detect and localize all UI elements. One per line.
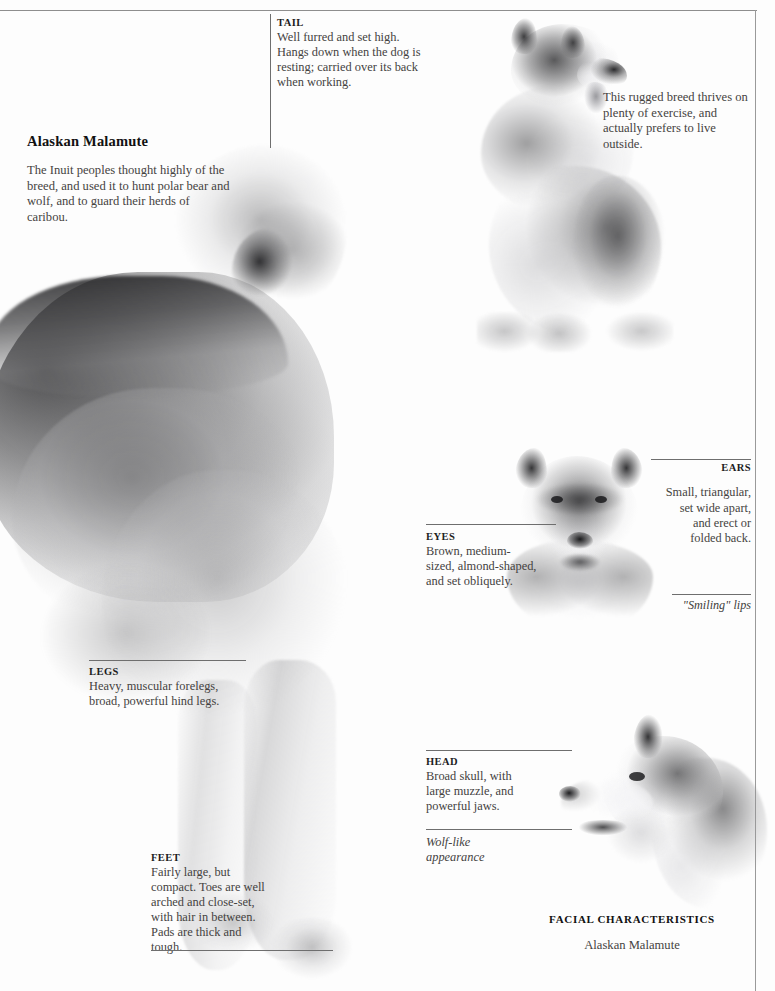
head-leader-line [426,750,572,751]
callout-feet-header: FEET [151,851,269,864]
callout-eyes-header: EYES [426,530,538,543]
callout-feet-body: Fairly large, but compact. Toes are well… [151,865,269,955]
caption-subtitle: Alaskan Malamute [487,938,775,953]
eyes-leader-line [426,524,556,525]
page-top-rule [0,10,757,11]
tail-leader-line [270,14,271,148]
callout-smiling-lips: "Smiling" lips [611,598,751,613]
book-page: TAIL Well furred and set high. Hangs dow… [0,0,775,991]
alaskan-malamute-sitting-photo [455,16,685,361]
legs-leader-line [89,660,246,661]
ears-leader-line [651,459,751,460]
feet-leader-line [151,950,333,951]
callout-eyes-body: Brown, medium-sized, almond-shaped, and … [426,544,538,589]
callout-head: HEAD Broad skull, with large muzzle, and… [426,755,530,814]
side-note-text: This rugged breed thrives on plenty of e… [603,90,753,153]
callout-ears-header: EARS [665,462,751,473]
facial-characteristics-caption: FACIAL CHARACTERISTICS Alaskan Malamute [487,913,775,965]
caption-title: FACIAL CHARACTERISTICS [487,913,775,925]
callout-wolf-like: Wolf-like appearance [426,835,530,865]
callout-legs-header: LEGS [89,665,229,678]
callout-eyes: EYES Brown, medium-sized, almond-shaped,… [426,530,538,589]
callout-legs-body: Heavy, muscular forelegs, broad, powerfu… [89,679,229,709]
callout-ears-body: Small, triangular, set wide apart, and e… [665,485,751,546]
callout-tail-header: TAIL [277,16,425,29]
callout-tail: TAIL Well furred and set high. Hangs dow… [277,16,425,90]
callout-ears: EARS Small, triangular, set wide apart, … [665,462,751,559]
breed-title-block: Alaskan Malamute The Inuit peoples thoug… [27,133,232,238]
smiling-lips-leader-line [672,594,751,595]
callout-head-body: Broad skull, with large muzzle, and powe… [426,769,530,814]
wolf-like-leader-line [426,829,572,830]
alaskan-malamute-standing-photo [0,140,402,970]
callout-tail-body: Well furred and set high. Hangs down whe… [277,30,425,90]
breed-intro-text: The Inuit peoples thought highly of the … [27,163,232,225]
page-title: Alaskan Malamute [27,133,232,150]
callout-head-header: HEAD [426,755,530,768]
alaskan-malamute-head-profile-photo [555,700,765,915]
callout-legs: LEGS Heavy, muscular forelegs, broad, po… [89,665,229,709]
callout-feet: FEET Fairly large, but compact. Toes are… [151,851,269,955]
callout-wolf-like-body: Wolf-like appearance [426,835,530,865]
